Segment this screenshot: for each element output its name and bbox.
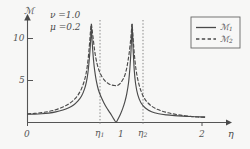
x-tick-label-eta2: η2 — [138, 129, 147, 138]
legend-label-m2: ℳ2 — [220, 35, 233, 45]
x-tick-label-0: 0 — [24, 130, 30, 139]
annotation-nu: ν =1.0 — [50, 11, 80, 20]
x-tick-label-1: 1 — [118, 130, 124, 139]
curve-m1 — [28, 24, 205, 122]
chart-plot-area — [0, 0, 250, 149]
annotation-mu: μ =0.2 — [50, 23, 81, 32]
resonance-chart-figure: ℳ 10 5 0 η1 1 η2 2 η ν =1.0 μ =0.2 ℳ1 ℳ2 — [0, 0, 250, 149]
y-axis-label: ℳ — [24, 6, 34, 16]
x-tick-label-2: 2 — [199, 130, 205, 139]
y-tick-marks — [28, 39, 34, 81]
y-tick-label-5: 5 — [19, 76, 25, 85]
x-axis-label: η — [228, 129, 234, 139]
y-tick-label-10: 10 — [13, 34, 24, 43]
curve-m2 — [28, 24, 205, 117]
x-tick-label-eta1: η1 — [95, 129, 104, 138]
legend-label-m1: ℳ1 — [220, 23, 233, 33]
